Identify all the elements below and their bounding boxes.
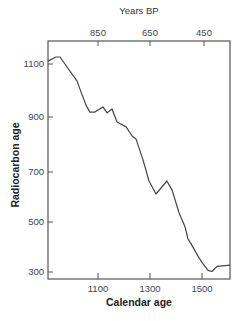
x-axis-title: Calendar age <box>106 296 172 308</box>
top-axis: 850 650 450 <box>90 27 212 46</box>
x-axis: 1100 1300 1500 <box>88 273 213 294</box>
y-tick-label: 1100 <box>24 58 44 69</box>
calibration-curve-line <box>48 57 230 272</box>
top-tick-label: 850 <box>90 27 106 38</box>
x-tick-label: 1300 <box>139 283 160 294</box>
y-tick-label: 700 <box>28 166 44 177</box>
radiocarbon-calibration-chart: Years BP 850 650 450 1100 900 700 500 30… <box>0 0 243 321</box>
top-tick-label: 450 <box>196 27 212 38</box>
y-tick-label: 500 <box>28 216 44 227</box>
top-tick-label: 650 <box>142 27 158 38</box>
x-tick-label: 1100 <box>88 283 108 294</box>
y-tick-label: 900 <box>28 111 44 122</box>
top-axis-title: Years BP <box>119 5 158 16</box>
x-tick-label: 1500 <box>191 283 212 294</box>
plot-frame <box>48 41 230 279</box>
y-axis-title: Radiocarbon age <box>9 122 21 207</box>
y-tick-label: 300 <box>28 266 44 277</box>
